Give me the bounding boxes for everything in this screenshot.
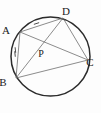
vertex-label-a: A bbox=[2, 24, 10, 36]
vertex-label-b: B bbox=[0, 76, 7, 88]
chord-d-c bbox=[63, 18, 88, 60]
geometry-figure: A B C D P bbox=[0, 0, 101, 113]
chord-b-c bbox=[16, 60, 88, 78]
geometry-canvas: A B C D P bbox=[0, 0, 101, 113]
diagonal-a-c bbox=[20, 32, 88, 60]
vertex-label-c: C bbox=[86, 56, 93, 68]
point-label-p: P bbox=[38, 48, 44, 59]
congruence-tick-ad bbox=[34, 23, 39, 25]
vertex-label-d: D bbox=[62, 5, 70, 17]
circumscribed-circle bbox=[11, 17, 90, 96]
congruence-tick-ab-second bbox=[15, 51, 16, 56]
chord-a-b bbox=[16, 32, 20, 78]
